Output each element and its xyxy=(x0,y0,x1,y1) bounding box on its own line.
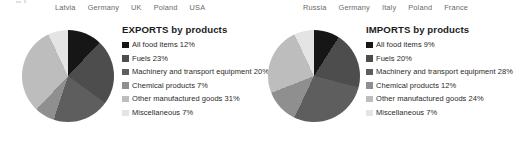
exports-country-axis: Latvia Germany UK Poland USA xyxy=(55,3,205,12)
legend-color-swatch xyxy=(122,55,129,62)
axis-tick: Poland xyxy=(154,3,178,12)
chart-title-rest: by products xyxy=(169,24,228,35)
imports-legend-item: Chemical products 12% xyxy=(366,79,518,93)
legend-color-swatch xyxy=(366,55,373,62)
exports-legend-item: Miscellaneous 7% xyxy=(122,106,272,120)
imports-legend-item: Other manufactured goods 24% xyxy=(366,92,518,106)
legend-color-swatch xyxy=(366,82,373,89)
axis-tick: Russia xyxy=(303,3,327,12)
legend-color-swatch xyxy=(366,69,373,76)
axis-tick: Germany xyxy=(339,3,370,12)
legend-color-swatch xyxy=(122,82,129,89)
legend-label: Miscellaneous 7% xyxy=(132,109,193,117)
crop-artifact-mark xyxy=(16,1,21,3)
legend-label: Machinery and transport equipment 20% xyxy=(132,68,269,76)
imports-legend-item: Machinery and transport equipment 28% xyxy=(366,65,518,79)
axis-tick: Latvia xyxy=(55,3,76,12)
exports-chart-panel: EXPORTS by products All food items 12%Fu… xyxy=(18,24,266,139)
exports-legend-item: Chemical products 7% xyxy=(122,79,272,93)
legend-label: Other manufactured goods 31% xyxy=(132,95,240,103)
imports-legend-item: Fuels 20% xyxy=(366,52,518,66)
legend-color-swatch xyxy=(122,96,129,103)
axis-tick: Italy xyxy=(382,3,396,12)
crop-artifact-mark xyxy=(24,0,26,3)
chart-title-caps: IMPORTS xyxy=(366,24,410,35)
imports-chart-panel: IMPORTS by products All food items 9%Fue… xyxy=(264,24,516,139)
legend-label: Fuels 23% xyxy=(132,55,168,63)
exports-legend-list: All food items 12%Fuels 23%Machinery and… xyxy=(122,38,272,120)
legend-label: Chemical products 7% xyxy=(132,82,208,90)
legend-label: All food items 12% xyxy=(132,41,195,49)
axis-tick: Poland xyxy=(408,3,432,12)
exports-legend-item: Machinery and transport equipment 20% xyxy=(122,65,272,79)
imports-country-axis: Russia Germany Italy Poland France xyxy=(303,3,468,12)
exports-legend-item: Other manufactured goods 31% xyxy=(122,92,272,106)
legend-color-swatch xyxy=(366,110,373,117)
imports-legend-item: All food items 9% xyxy=(366,38,518,52)
exports-legend-item: Fuels 23% xyxy=(122,52,272,66)
legend-label: Fuels 20% xyxy=(376,55,412,63)
imports-legend-list: All food items 9%Fuels 20%Machinery and … xyxy=(366,38,518,120)
imports-pie-chart xyxy=(268,30,360,122)
legend-color-swatch xyxy=(366,96,373,103)
legend-label: Other manufactured goods 24% xyxy=(376,95,484,103)
exports-pie-chart xyxy=(22,30,114,122)
axis-tick: France xyxy=(444,3,468,12)
legend-color-swatch xyxy=(122,42,129,49)
legend-color-swatch xyxy=(366,42,373,49)
axis-tick: USA xyxy=(190,3,206,12)
legend-label: Miscellaneous 7% xyxy=(376,109,437,117)
chart-title-caps: EXPORTS xyxy=(122,24,169,35)
exports-legend-block: EXPORTS by products All food items 12%Fu… xyxy=(122,24,272,120)
legend-color-swatch xyxy=(122,69,129,76)
axis-tick: UK xyxy=(131,3,142,12)
imports-legend-item: Miscellaneous 7% xyxy=(366,106,518,120)
legend-label: All food items 9% xyxy=(376,41,435,49)
legend-label: Machinery and transport equipment 28% xyxy=(376,68,513,76)
imports-legend-block: IMPORTS by products All food items 9%Fue… xyxy=(366,24,518,120)
chart-title-rest: by products xyxy=(410,24,469,35)
imports-chart-title: IMPORTS by products xyxy=(366,24,518,35)
axis-tick: Germany xyxy=(88,3,119,12)
exports-chart-title: EXPORTS by products xyxy=(122,24,272,35)
legend-label: Chemical products 12% xyxy=(376,82,456,90)
exports-legend-item: All food items 12% xyxy=(122,38,272,52)
legend-color-swatch xyxy=(122,110,129,117)
